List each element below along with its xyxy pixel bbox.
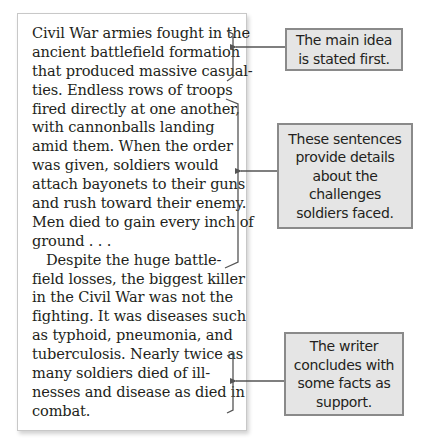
callout-line: The main idea: [296, 31, 392, 50]
callout-line: some facts as: [294, 374, 394, 393]
callout-line: is stated first.: [296, 50, 392, 69]
callout-line: challenges: [288, 185, 401, 204]
bracket-details: [225, 99, 277, 268]
callout-line: about the: [288, 167, 401, 186]
bracket-main-idea: [227, 31, 286, 81]
callout-line: support.: [294, 393, 394, 412]
bracket-conclusion: [227, 353, 284, 413]
callout-line: soldiers faced.: [288, 204, 401, 223]
callout-line: These sentences: [288, 130, 401, 149]
callout-line: The writer: [294, 337, 394, 356]
callout-conclusion: The writer concludes with some facts as …: [284, 332, 404, 416]
callout-line: concludes with: [294, 356, 394, 375]
callout-line: provide details: [288, 148, 401, 167]
callout-details: These sentences provide details about th…: [277, 123, 413, 229]
callout-main-idea: The main idea is stated first.: [285, 28, 403, 71]
